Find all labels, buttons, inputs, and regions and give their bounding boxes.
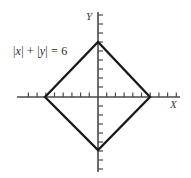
graph-figure: |x| + |y| = 6 Y X bbox=[0, 0, 191, 178]
equation-equals-sign: = bbox=[48, 44, 61, 58]
x-axis-label: X bbox=[170, 98, 177, 110]
equation-value: 6 bbox=[61, 44, 67, 58]
y-axis-label: Y bbox=[86, 10, 92, 22]
equation-plus-sign: + bbox=[24, 44, 37, 58]
coordinate-plot bbox=[0, 0, 191, 178]
equation-label: |x| + |y| = 6 bbox=[13, 44, 67, 59]
